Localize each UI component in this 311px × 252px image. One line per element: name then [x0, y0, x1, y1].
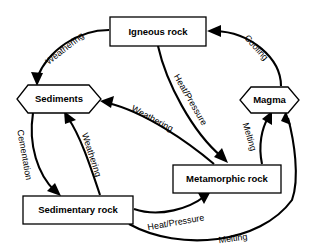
edge-igneous-to-metamorphic: Heat/Pressure — [158, 46, 228, 163]
edge-label-metamorphic-to-magma: Melting — [241, 121, 259, 152]
edge-igneous-to-sediments: Weathering — [31, 30, 109, 86]
edge-path-metamorphic-to-magma — [260, 118, 268, 164]
node-magma[interactable]: Magma — [240, 87, 299, 113]
edge-sedimentary-to-metamorphic: Heat/Pressure — [134, 191, 211, 232]
arrow-head-icon — [214, 148, 228, 163]
node-sedimentary-rock[interactable]: Sedimentary rock — [23, 196, 133, 224]
node-metamorphic-rock[interactable]: Metamorphic rock — [173, 165, 281, 193]
edge-path-sedimentary-to-metamorphic — [134, 196, 205, 212]
node-sediments[interactable]: Sediments — [17, 85, 101, 113]
edge-sediments-to-sedimentary: Cementation — [15, 113, 61, 196]
edge-label-igneous-to-sediments: Weathering — [43, 30, 85, 66]
edge-label-sedimentary-to-metamorphic: Heat/Pressure — [147, 212, 205, 232]
diagram-canvas: Weathering Cooling Heat/Pressure Weather… — [0, 0, 311, 252]
edge-label-metamorphic-to-sediments: Weathering — [130, 103, 175, 133]
node-label-metamorphic-rock: Metamorphic rock — [186, 173, 269, 184]
arrow-head-icon — [31, 72, 43, 86]
node-label-sedimentary-rock: Sedimentary rock — [38, 204, 118, 215]
node-label-magma: Magma — [253, 94, 286, 105]
edge-metamorphic-to-magma: Melting — [241, 111, 272, 164]
edge-label-sedimentary-to-magma: Melting — [218, 231, 248, 245]
arrow-head-icon — [100, 96, 114, 108]
node-label-sediments: Sediments — [35, 93, 83, 104]
edge-label-magma-to-igneous: Cooling — [243, 33, 271, 62]
edge-sedimentary-to-sediments: Weathering — [64, 111, 103, 195]
edge-path-sediments-to-sedimentary — [32, 113, 55, 191]
arrow-head-icon — [207, 25, 221, 37]
node-label-igneous-rock: Igneous rock — [128, 26, 188, 37]
edge-magma-to-igneous: Cooling — [207, 25, 281, 86]
rock-cycle-diagram: Weathering Cooling Heat/Pressure Weather… — [0, 0, 311, 252]
node-igneous-rock[interactable]: Igneous rock — [110, 17, 206, 46]
